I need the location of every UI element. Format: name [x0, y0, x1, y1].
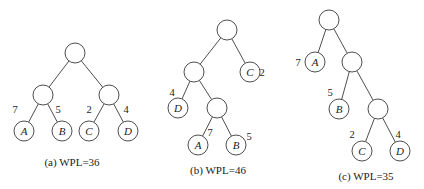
tree-a-edge	[29, 104, 39, 122]
leaf-weight: 5	[246, 131, 251, 142]
tree-b-caption: (b) WPL=46	[190, 164, 246, 177]
tree-a-edge	[94, 104, 104, 123]
tree-c-edge	[334, 29, 347, 53]
tree-c-edge	[318, 29, 326, 52]
tree-c-internal-node	[368, 99, 388, 119]
tree-c-edge	[383, 118, 396, 142]
tree-a-edge	[49, 61, 69, 87]
leaf-label: D	[123, 125, 132, 137]
leaf-weight: 2	[259, 67, 264, 78]
leaf-label: B	[336, 103, 343, 115]
tree-b-internal-node	[217, 20, 237, 40]
leaf-label: C	[358, 145, 366, 157]
tree-a-internal-node	[99, 85, 119, 105]
huffman-trees-diagram: A7B5C2D4(a) WPL=36C2D4A7B5(b) WPL=46A7B5…	[0, 0, 424, 189]
leaf-weight: 7	[12, 104, 17, 115]
tree-a-internal-node	[65, 43, 85, 63]
tree-b-internal-node	[207, 98, 227, 118]
tree-b-edge	[232, 39, 245, 63]
leaf-weight: 4	[169, 87, 175, 98]
leaf-label: D	[173, 102, 182, 114]
tree-b-edge	[199, 80, 211, 99]
labels-layer: A7B5C2D4(a) WPL=36C2D4A7B5(b) WPL=46A7B5…	[12, 56, 404, 183]
tree-a-edge	[81, 61, 102, 87]
leaf-label: B	[233, 139, 240, 151]
leaf-label: A	[20, 125, 28, 137]
leaf-label: C	[246, 66, 254, 78]
leaf-label: D	[395, 145, 404, 157]
tree-c-edge	[366, 118, 375, 141]
tree-c-internal-node	[342, 52, 362, 72]
leaf-weight: 2	[86, 104, 91, 115]
leaf-weight: 4	[395, 129, 401, 140]
tree-b-internal-node	[184, 62, 204, 82]
tree-a-edge	[114, 104, 124, 122]
tree-b-edge	[200, 38, 221, 64]
tree-c-internal-node	[319, 10, 339, 30]
leaf-weight: 7	[295, 57, 300, 68]
leaf-label: B	[59, 125, 66, 137]
tree-a-caption: (a) WPL=36	[44, 156, 100, 169]
leaf-weight: 4	[123, 104, 129, 115]
leaf-label: C	[85, 125, 93, 137]
leaf-weight: 5	[55, 104, 60, 115]
leaf-label: A	[311, 56, 319, 68]
tree-b-edge	[222, 117, 232, 136]
tree-b-edge	[182, 81, 190, 99]
leaf-weight: 5	[327, 87, 332, 98]
leaf-weight: 7	[207, 127, 212, 138]
tree-c-caption: (c) WPL=35	[338, 170, 394, 183]
tree-c-edge	[342, 72, 350, 100]
leaf-weight: 2	[349, 129, 354, 140]
leaf-label: A	[194, 139, 202, 151]
tree-c-edge	[357, 71, 373, 100]
tree-a-internal-node	[33, 85, 53, 105]
